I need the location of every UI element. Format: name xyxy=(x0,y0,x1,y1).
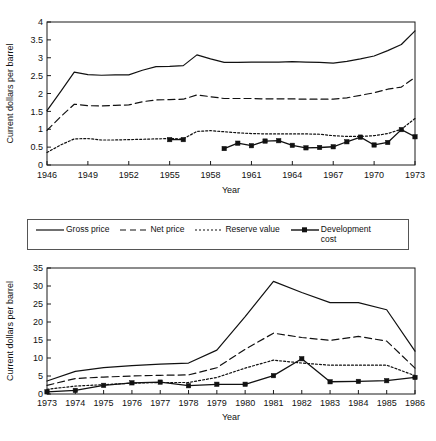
x-tick-label: 1981 xyxy=(263,398,283,408)
legend-item-gross-price: Gross price xyxy=(36,225,109,235)
legend-label: Gross price xyxy=(66,225,109,235)
y-tick-label: 35 xyxy=(33,263,43,273)
x-tick-label: 1975 xyxy=(94,398,114,408)
x-tick-label: 1946 xyxy=(37,170,57,180)
y-tick-label: 0 xyxy=(38,160,43,170)
x-tick-label: 1970 xyxy=(364,170,384,180)
data-point-marker xyxy=(243,382,247,386)
x-tick-label: 1985 xyxy=(377,398,397,408)
data-point-marker xyxy=(384,378,388,382)
legend-box: Gross priceNet priceReserve valueDevelop… xyxy=(27,219,409,250)
y-tick-label: 4 xyxy=(38,17,43,27)
x-tick-label: 1973 xyxy=(37,398,57,408)
x-tick-label: 1986 xyxy=(405,398,425,408)
y-tick-label: 0.5 xyxy=(30,142,43,152)
legend-label: Development cost xyxy=(321,225,371,244)
data-point-marker xyxy=(358,135,362,139)
chart-bottom-canvas: 0510152025303519731974197519761977197819… xyxy=(0,258,436,441)
data-point-marker xyxy=(317,145,321,149)
data-point-marker xyxy=(263,139,267,143)
data-point-marker xyxy=(290,143,294,147)
y-axis-title: Current dollars per barrel xyxy=(5,281,15,381)
y-tick-label: 10 xyxy=(33,353,43,363)
x-tick-label: 1958 xyxy=(201,170,221,180)
chart-bottom: 0510152025303519731974197519761977197819… xyxy=(0,258,436,441)
legend-row: Gross priceNet priceReserve valueDevelop… xyxy=(28,220,408,249)
x-tick-label: 1980 xyxy=(235,398,255,408)
x-tick-label: 1967 xyxy=(323,170,343,180)
x-tick-label: 1976 xyxy=(122,398,142,408)
y-tick-label: 2.5 xyxy=(30,71,43,81)
data-point-marker xyxy=(356,379,360,383)
series-line-net-price xyxy=(47,333,415,385)
legend: Gross priceNet priceReserve valueDevelop… xyxy=(0,210,436,258)
data-point-marker xyxy=(158,380,162,384)
x-tick-label: 1982 xyxy=(292,398,312,408)
y-tick-label: 2 xyxy=(38,89,43,99)
x-tick-label: 1983 xyxy=(320,398,340,408)
y-tick-label: 5 xyxy=(38,371,43,381)
plot-frame xyxy=(47,22,415,165)
data-point-marker xyxy=(328,380,332,384)
x-tick-label: 1961 xyxy=(241,170,261,180)
y-tick-label: 1 xyxy=(38,124,43,134)
x-tick-label: 1984 xyxy=(348,398,368,408)
data-point-marker xyxy=(300,357,304,361)
chart-top-canvas: 00.511.522.533.5419461949195219551958196… xyxy=(0,0,436,208)
data-point-marker xyxy=(222,146,226,150)
legend-swatch-dotted-icon xyxy=(195,225,223,234)
y-tick-label: 25 xyxy=(33,299,43,309)
data-point-marker xyxy=(249,143,253,147)
data-point-marker xyxy=(101,383,105,387)
y-tick-label: 30 xyxy=(33,281,43,291)
x-tick-label: 1977 xyxy=(150,398,170,408)
data-point-marker xyxy=(399,127,403,131)
x-tick-label: 1964 xyxy=(282,170,302,180)
series-line-gross-price xyxy=(47,31,415,111)
x-tick-label: 1955 xyxy=(160,170,180,180)
legend-item-net-price: Net price xyxy=(120,225,184,235)
data-point-marker xyxy=(236,141,240,145)
series-line-gross-price xyxy=(47,281,415,381)
y-tick-label: 3.5 xyxy=(30,35,43,45)
x-tick-label: 1973 xyxy=(405,170,425,180)
data-point-marker xyxy=(304,146,308,150)
data-point-marker xyxy=(45,390,49,394)
legend-item-reserve-value: Reserve value xyxy=(195,225,279,235)
data-point-marker xyxy=(167,137,171,141)
y-axis-title: Current dollars per barrel xyxy=(5,43,15,143)
data-point-marker xyxy=(345,140,349,144)
series-line-net-price xyxy=(47,77,415,130)
data-point-marker xyxy=(277,138,281,142)
data-point-marker xyxy=(271,373,275,377)
legend-item-development-cost: Development cost xyxy=(291,225,371,244)
data-point-marker xyxy=(386,140,390,144)
data-point-marker xyxy=(413,375,417,379)
data-point-marker xyxy=(331,145,335,149)
legend-swatch-solid-marker-icon xyxy=(291,225,319,234)
legend-swatch-dashed-icon xyxy=(120,225,148,234)
data-point-marker xyxy=(413,135,417,139)
legend-swatch-solid-icon xyxy=(36,225,64,234)
data-point-marker xyxy=(372,143,376,147)
plot-frame xyxy=(47,268,415,394)
x-tick-label: 1949 xyxy=(78,170,98,180)
data-point-marker xyxy=(181,137,185,141)
x-tick-label: 1974 xyxy=(65,398,85,408)
y-tick-label: 20 xyxy=(33,317,43,327)
x-tick-label: 1979 xyxy=(207,398,227,408)
x-axis-title: Year xyxy=(222,185,240,195)
x-tick-label: 1952 xyxy=(119,170,139,180)
y-tick-label: 1.5 xyxy=(30,107,43,117)
y-tick-label: 15 xyxy=(33,335,43,345)
figure-page: 00.511.522.533.5419461949195219551958196… xyxy=(0,0,436,441)
y-tick-label: 3 xyxy=(38,53,43,63)
data-point-marker xyxy=(130,381,134,385)
data-point-marker xyxy=(215,382,219,386)
data-point-marker xyxy=(73,388,77,392)
x-tick-label: 1978 xyxy=(179,398,199,408)
legend-label: Net price xyxy=(150,225,184,235)
chart-top: 00.511.522.533.5419461949195219551958196… xyxy=(0,0,436,208)
legend-label: Reserve value xyxy=(225,225,279,235)
x-axis-title: Year xyxy=(222,412,240,422)
